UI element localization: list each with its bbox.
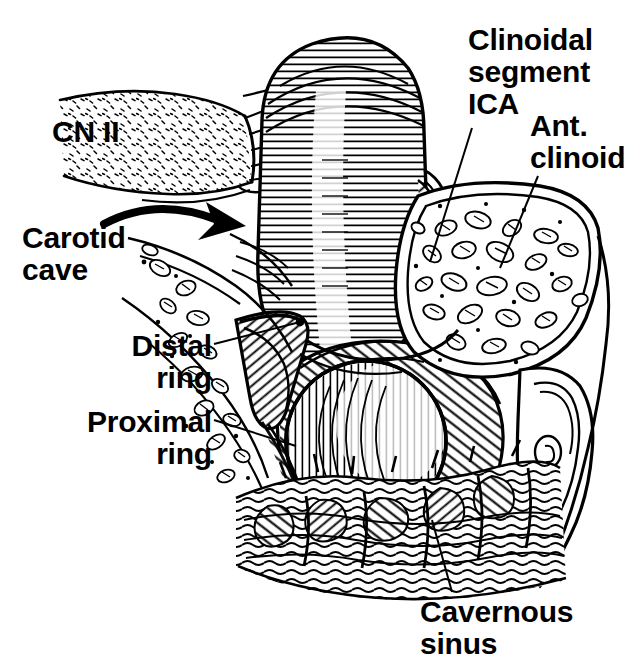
label-ant-clinoid: Ant. clinoid	[530, 110, 625, 174]
label-distal-ring: Distal ring	[74, 330, 212, 394]
label-clinoidal-segment-ica: Clinoidal segment ICA	[468, 24, 593, 119]
anatomical-figure: CN II Carotid cave Distal ring Proximal …	[0, 0, 638, 667]
label-proximal-ring: Proximal ring	[62, 406, 212, 470]
label-cn2: CN II	[52, 116, 119, 148]
label-cavernous-sinus: Cavernous sinus	[420, 596, 573, 660]
label-carotid-cave: Carotid cave	[22, 222, 126, 286]
